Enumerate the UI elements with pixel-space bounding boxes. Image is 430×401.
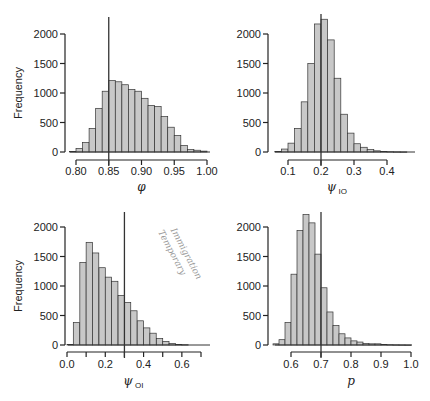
- handwritten-annotation: TemporaryImmigration: [156, 223, 204, 287]
- histogram-bar: [137, 321, 143, 345]
- x-tick-label: 0.9: [373, 358, 388, 370]
- x-tick-label: 1.00: [196, 165, 217, 177]
- histogram-psi-io: 05001000150020000.10.20.30.4ψIO: [237, 14, 415, 196]
- histogram-bar: [99, 268, 105, 345]
- histogram-psi-oi: 0500100015002000Frequency0.00.20.40.6ψOI…: [12, 212, 210, 390]
- y-tick-label: 0: [52, 146, 58, 158]
- histogram-bar: [291, 274, 297, 345]
- x-tick-label: 0.90: [131, 165, 152, 177]
- histogram-bar: [163, 341, 169, 345]
- x-axis: 0.00.20.40.6ψOI: [59, 352, 201, 390]
- y-tick-label: 1500: [237, 58, 261, 70]
- x-axis-title: φ: [137, 180, 146, 194]
- histogram-bar: [161, 117, 168, 152]
- x-tick-label: 0.4: [136, 358, 151, 370]
- x-axis-title: ψ: [327, 180, 337, 194]
- histogram-bar: [334, 78, 341, 152]
- y-axis: 0500100015002000: [237, 28, 268, 158]
- x-tick-label: 0.4: [379, 165, 394, 177]
- y-tick-label: 1000: [34, 87, 58, 99]
- histogram-bar: [148, 105, 155, 152]
- histogram-p: 05001000150020000.60.70.80.91.0p: [237, 212, 419, 388]
- histogram-bar: [328, 40, 335, 152]
- y-axis: 0500100015002000: [237, 221, 268, 351]
- x-axis: 0.10.20.30.4ψIO: [280, 160, 394, 196]
- y-tick-label: 2000: [34, 221, 58, 233]
- histogram-bar: [308, 64, 315, 153]
- x-axis-title: p: [347, 374, 355, 388]
- histogram-bar: [135, 91, 142, 152]
- histogram-bar: [118, 295, 124, 345]
- histogram-bars: [275, 19, 407, 152]
- histogram-bar: [174, 135, 181, 152]
- y-tick-label: 2000: [237, 28, 261, 40]
- histogram-bar: [301, 102, 308, 152]
- histogram-bar: [109, 81, 116, 152]
- histogram-bar: [181, 146, 188, 152]
- y-axis-title: Frequency: [12, 260, 24, 312]
- histogram-bar: [92, 253, 98, 345]
- histogram-phi: 0500100015002000Frequency0.800.850.900.9…: [12, 17, 218, 194]
- histogram-bar: [122, 85, 129, 152]
- histogram-bar: [105, 277, 111, 345]
- histogram-bar: [115, 82, 122, 152]
- x-tick-label: 0.2: [98, 358, 113, 370]
- histogram-bar: [96, 108, 103, 152]
- histogram-bar: [341, 114, 348, 152]
- x-tick-label: 0.95: [164, 165, 185, 177]
- histogram-bar: [321, 19, 328, 152]
- histogram-bar: [155, 107, 162, 152]
- histogram-bar: [144, 328, 150, 345]
- y-tick-label: 500: [40, 117, 58, 129]
- y-tick-label: 1000: [34, 280, 58, 292]
- y-tick-label: 1000: [237, 87, 261, 99]
- histogram-bar: [361, 147, 368, 152]
- x-axis: 0.60.70.80.91.0p: [283, 352, 418, 388]
- y-tick-label: 0: [52, 339, 58, 351]
- y-tick-label: 1500: [34, 58, 58, 70]
- histogram-bar: [128, 89, 135, 152]
- histogram-bar: [315, 254, 321, 345]
- y-tick-label: 2000: [34, 28, 58, 40]
- histogram-bar: [168, 127, 175, 152]
- histogram-bar: [142, 98, 149, 152]
- histogram-bar: [80, 262, 86, 345]
- y-tick-label: 500: [243, 117, 261, 129]
- histogram-bar: [303, 215, 309, 345]
- histogram-bar: [327, 312, 333, 345]
- histogram-bar: [102, 91, 109, 152]
- x-axis-title: ψ: [123, 374, 133, 388]
- x-tick-label: 1.0: [403, 358, 418, 370]
- y-tick-label: 500: [243, 310, 261, 322]
- x-tick-label: 0.1: [280, 165, 295, 177]
- histogram-bar: [345, 338, 351, 345]
- x-tick-label: 0.2: [313, 165, 328, 177]
- y-tick-label: 1000: [237, 280, 261, 292]
- histogram-bar: [150, 333, 156, 345]
- y-axis: 0500100015002000Frequency: [12, 221, 65, 351]
- x-axis: 0.800.850.900.951.00φ: [65, 160, 217, 194]
- y-tick-label: 0: [255, 146, 261, 158]
- histogram-bar: [295, 128, 302, 152]
- histogram-bar: [314, 24, 321, 152]
- histogram-bar: [321, 288, 327, 345]
- histogram-bar: [285, 323, 291, 345]
- y-tick-label: 1500: [237, 251, 261, 263]
- histogram-bar: [112, 281, 118, 345]
- histogram-bar: [288, 143, 295, 152]
- histogram-bar: [86, 242, 92, 345]
- histogram-bar: [83, 143, 90, 152]
- histogram-bar: [309, 223, 315, 345]
- x-tick-label: 0.3: [346, 165, 361, 177]
- histogram-bar: [297, 231, 303, 345]
- histogram-bar: [347, 133, 354, 152]
- histogram-bar: [351, 341, 357, 345]
- histogram-bar: [124, 303, 130, 345]
- histogram-bars: [273, 215, 411, 346]
- histogram-bars: [69, 81, 207, 152]
- x-tick-label: 0.7: [313, 358, 328, 370]
- y-axis-title: Frequency: [12, 67, 24, 119]
- x-tick-label: 0.6: [283, 358, 298, 370]
- histogram-figure: 0500100015002000Frequency0.800.850.900.9…: [0, 0, 430, 401]
- histogram-bar: [279, 340, 285, 345]
